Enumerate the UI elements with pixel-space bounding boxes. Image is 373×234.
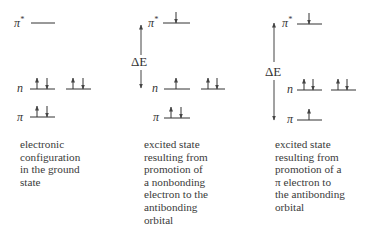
delta-e-label: ΔE <box>265 64 281 79</box>
caption-ground-state: electronic configuration in the ground s… <box>20 138 80 188</box>
pi-label: π <box>153 110 160 124</box>
pi-star-label: π* <box>148 15 158 30</box>
caption-n-to-pi-star: excited state resulting from promotion o… <box>144 138 208 226</box>
panel-ground-state: π* n π <box>14 15 91 124</box>
caption-pi-to-pi-star: excited state resulting from promotion o… <box>275 138 345 214</box>
pi-label: π <box>17 110 24 124</box>
pi-label: π <box>287 112 294 126</box>
delta-e-label: ΔE <box>131 54 147 69</box>
panel-n-to-pi-star: ΔE π* n π <box>131 12 225 124</box>
n-label: n <box>17 81 23 95</box>
panel-pi-to-pi-star: ΔE π* n π <box>265 13 356 126</box>
pi-star-label: π* <box>14 15 24 30</box>
n-label: n <box>287 82 293 96</box>
n-label: n <box>152 81 158 95</box>
pi-star-label: π* <box>282 15 292 30</box>
